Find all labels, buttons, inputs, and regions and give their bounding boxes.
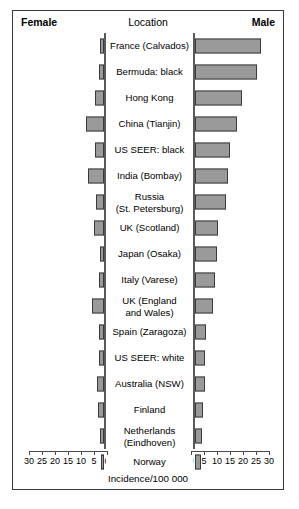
bar-male — [195, 39, 261, 54]
chart-row: US SEER: white — [13, 345, 283, 371]
chart-header: Female Location Male — [13, 15, 283, 33]
bar-male — [195, 247, 217, 262]
bar-female — [98, 403, 104, 418]
chart-row: Spain (Zaragoza) — [13, 319, 283, 345]
axis-tick — [217, 451, 218, 455]
chart-row: UK (England and Wales) — [13, 293, 283, 319]
row-label: Italy (Varese) — [106, 274, 193, 286]
axis-tick — [81, 451, 82, 455]
row-label: UK (Scotland) — [106, 222, 193, 234]
chart-row: Italy (Varese) — [13, 267, 283, 293]
axis-tick — [269, 451, 270, 455]
plot-area: France (Calvados)Bermuda: blackHong Kong… — [13, 33, 283, 449]
bar-female — [95, 143, 104, 158]
row-label: US SEER: black — [106, 144, 193, 156]
axis-tick-label: 30 — [260, 456, 278, 467]
row-label: China (Tianjin) — [106, 118, 193, 130]
bar-male — [195, 195, 226, 210]
bar-female — [99, 65, 104, 80]
axis-tick — [204, 451, 205, 455]
row-label: Norway — [106, 456, 193, 468]
header-location: Location — [13, 15, 283, 29]
bar-male — [195, 91, 242, 106]
chart-row: Finland — [13, 397, 283, 423]
row-label: Russia (St. Petersburg) — [106, 191, 193, 214]
chart-row: France (Calvados) — [13, 33, 283, 59]
bar-female — [94, 221, 104, 236]
bar-female — [99, 351, 104, 366]
chart-row: Netherlands (Eindhoven) — [13, 423, 283, 449]
chart-row: Bermuda: black — [13, 59, 283, 85]
bar-female — [100, 429, 104, 444]
chart-page: Female Location Male France (Calvados)Be… — [0, 0, 299, 509]
bar-female — [100, 247, 104, 262]
row-label: Hong Kong — [106, 92, 193, 104]
axis-title: Incidence/100 000 — [13, 473, 283, 485]
bar-male — [195, 325, 206, 340]
bar-male — [195, 299, 213, 314]
axis-tick — [107, 451, 108, 455]
axis-tick — [29, 451, 30, 455]
axis-tick — [230, 451, 231, 455]
bar-male — [195, 221, 218, 236]
bar-female — [92, 299, 104, 314]
bar-female — [99, 273, 104, 288]
chart-row: Japan (Osaka) — [13, 241, 283, 267]
header-male: Male — [252, 15, 275, 29]
chart-row: Australia (NSW) — [13, 371, 283, 397]
bar-male — [195, 351, 205, 366]
bar-male — [195, 429, 202, 444]
bar-male — [195, 143, 230, 158]
axis-tick — [256, 451, 257, 455]
row-label: UK (England and Wales) — [106, 295, 193, 318]
row-label: Spain (Zaragoza) — [106, 326, 193, 338]
bar-female — [86, 117, 104, 132]
bar-female — [95, 91, 104, 106]
chart-rows: France (Calvados)Bermuda: blackHong Kong… — [13, 33, 283, 475]
bar-male — [195, 65, 257, 80]
chart-row: Hong Kong — [13, 85, 283, 111]
bar-male — [195, 273, 215, 288]
axis-tick — [68, 451, 69, 455]
axis-male: 051015202530 — [191, 451, 269, 471]
row-label: Bermuda: black — [106, 66, 193, 78]
row-label: Japan (Osaka) — [106, 248, 193, 260]
bar-female — [100, 39, 104, 54]
row-label: Australia (NSW) — [106, 378, 193, 390]
row-label: US SEER: white — [106, 352, 193, 364]
axis-female: 302520151050 — [29, 451, 107, 471]
row-label: India (Bombay) — [106, 170, 193, 182]
figure-frame: Female Location Male France (Calvados)Be… — [12, 10, 284, 490]
bar-male — [195, 169, 228, 184]
axis-tick — [243, 451, 244, 455]
bar-female — [88, 169, 104, 184]
chart-row: Russia (St. Petersburg) — [13, 189, 283, 215]
bar-female — [97, 377, 104, 392]
chart-row: China (Tianjin) — [13, 111, 283, 137]
bar-female — [99, 325, 104, 340]
bar-male — [195, 403, 203, 418]
axis-tick — [94, 451, 95, 455]
axis-tick — [191, 451, 192, 455]
chart-row: India (Bombay) — [13, 163, 283, 189]
axis-tick — [42, 451, 43, 455]
bar-female — [96, 195, 104, 210]
row-label: Netherlands (Eindhoven) — [106, 425, 193, 448]
bar-male — [195, 377, 205, 392]
axis-tick — [55, 451, 56, 455]
chart-row: UK (Scotland) — [13, 215, 283, 241]
row-label: France (Calvados) — [106, 40, 193, 52]
chart-row: US SEER: black — [13, 137, 283, 163]
row-label: Finland — [106, 404, 193, 416]
bar-male — [195, 117, 237, 132]
